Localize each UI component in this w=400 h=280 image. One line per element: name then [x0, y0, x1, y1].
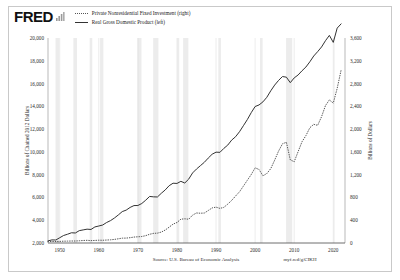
y-tick-label: 12,000 [30, 126, 45, 132]
y-axis-left-title: Billions of Chained 2012 Dollars [24, 106, 30, 175]
chart-svg: 2,0004,0006,0008,00010,00012,00014,00016… [0, 0, 400, 280]
y2-tick-label: 1,200 [350, 172, 362, 178]
y2-tick-label: 3,600 [350, 35, 362, 41]
y-tick-label: 16,000 [30, 81, 45, 87]
y-axis-right-title: Billions of Dollars [367, 121, 373, 160]
y2-tick-label: 0 [350, 240, 353, 246]
y-axis-left-labels: 2,0004,0006,0008,00010,00012,00014,00016… [30, 35, 45, 246]
y-tick-label: 14,000 [30, 103, 45, 109]
x-tick-label: 1960 [94, 247, 105, 253]
recession-bands [56, 38, 335, 243]
x-axis-labels: 19501960197019801990200020102020 [55, 247, 339, 253]
x-tick-label: 1990 [211, 247, 222, 253]
x-tick-label: 1980 [172, 247, 183, 253]
y-tick-label: 4,000 [32, 217, 44, 223]
y-axis-right-labels: 04008001,2001,6002,0002,4002,8003,2003,6… [350, 35, 362, 246]
y-tick-label: 2,000 [32, 240, 44, 246]
axis-lines [48, 38, 345, 243]
y2-tick-label: 3,200 [350, 58, 362, 64]
y2-tick-label: 2,400 [350, 103, 362, 109]
y-tick-label: 6,000 [32, 194, 44, 200]
y2-tick-label: 2,000 [350, 126, 362, 132]
y2-tick-label: 1,600 [350, 149, 362, 155]
permalink-label[interactable]: myf.red/g/CIKH [283, 257, 317, 262]
y2-tick-label: 2,800 [350, 81, 362, 87]
y-tick-label: 8,000 [32, 172, 44, 178]
plot-area: 2,0004,0006,0008,00010,00012,00014,00016… [0, 0, 400, 280]
source-label: Source: U.S. Bureau of Economic Analysis [153, 257, 240, 262]
y-tick-label: 10,000 [30, 149, 45, 155]
x-tick-label: 1970 [133, 247, 144, 253]
x-tick-label: 2010 [289, 247, 300, 253]
y2-tick-label: 800 [350, 194, 358, 200]
y-tick-label: 18,000 [30, 58, 45, 64]
fred-chart-figure: FRED Private Nonresidential Fixed Invest… [0, 0, 400, 280]
x-tick-label: 2000 [250, 247, 261, 253]
y2-tick-label: 400 [350, 217, 358, 223]
x-tick-label: 1950 [55, 247, 66, 253]
x-tick-label: 2020 [328, 247, 339, 253]
y-tick-label: 20,000 [30, 35, 45, 41]
